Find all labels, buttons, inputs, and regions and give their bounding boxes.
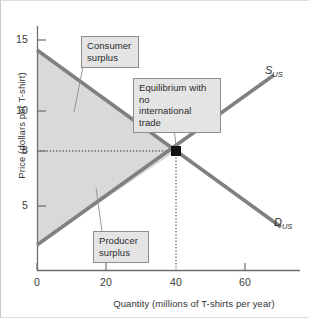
x-axis-ticks: [37, 263, 245, 270]
equilibrium-callout: Equilibrium with no international trade: [133, 78, 221, 133]
producer-surplus-callout-line1: Producer: [99, 235, 143, 247]
supply-demand-chart-figure: Price (dollars per T-shirt) Quantity (mi…: [0, 0, 309, 318]
consumer-surplus-callout-line2: surplus: [87, 52, 133, 64]
y-tick-label-10: 10: [6, 104, 28, 116]
x-tick-label-40: 40: [164, 276, 188, 288]
y-tick-label-8: 8: [6, 144, 28, 156]
x-tick-label-60: 60: [233, 276, 257, 288]
x-tick-label-0: 0: [25, 276, 49, 288]
x-axis-label: Quantity (millions of T-shirts per year): [84, 298, 304, 309]
producer-surplus-callout-line2: surplus: [99, 247, 143, 259]
consumer-surplus-callout: Consumer surplus: [81, 36, 139, 68]
consumer-surplus-callout-line1: Consumer: [87, 40, 133, 52]
equilibrium-marker: [171, 146, 181, 156]
demand-curve-label-letter: D: [274, 216, 282, 228]
supply-curve-label: SUS: [265, 64, 283, 79]
demand-curve-label-subscript: US: [282, 222, 292, 231]
y-axis-label: Price (dollars per T-shirt): [16, 61, 27, 191]
plot-canvas: [0, 0, 309, 318]
equilibrium-callout-line2: international trade: [139, 105, 215, 128]
y-tick-label-15: 15: [6, 33, 28, 45]
x-tick-label-20: 20: [94, 276, 118, 288]
producer-surplus-callout: Producer surplus: [93, 231, 149, 263]
y-tick-label-5: 5: [6, 199, 28, 211]
demand-curve-label: DUS: [274, 216, 292, 231]
equilibrium-callout-line1: Equilibrium with no: [139, 82, 215, 105]
supply-curve-label-subscript: US: [272, 70, 282, 79]
